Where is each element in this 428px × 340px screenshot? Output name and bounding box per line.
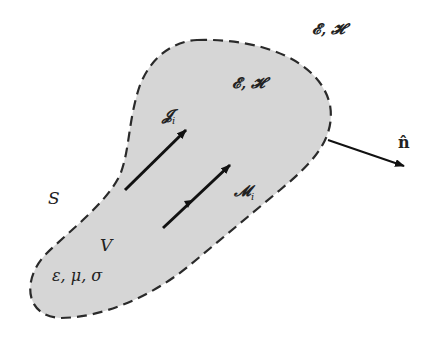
magnetic-source-symbol: 𝓜 <box>234 182 251 200</box>
outside-fields-label: 𝓔, 𝓗 <box>312 22 345 37</box>
electric-source-subscript: i <box>172 115 175 126</box>
electric-source-symbol: 𝓙 <box>162 106 172 124</box>
material-params-label: ε, μ, σ <box>52 268 102 284</box>
normal-vector-arrow <box>328 140 404 166</box>
magnetic-source-subscript: i <box>251 191 254 202</box>
surface-label: S <box>48 190 60 207</box>
inside-fields-label: 𝓔, 𝓗 <box>232 76 265 91</box>
diagram-canvas <box>0 0 428 340</box>
magnetic-source-label: 𝓜i <box>234 184 254 202</box>
volume-label: V <box>100 237 112 254</box>
normal-vector-label: n̂ <box>398 135 410 151</box>
electric-source-label: 𝓙i <box>162 108 175 126</box>
